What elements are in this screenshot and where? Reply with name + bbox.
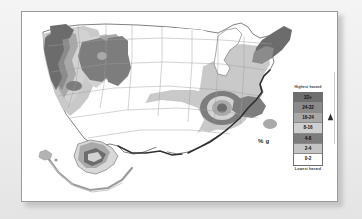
band-4-8-spot-nevada <box>66 81 82 91</box>
hawaii-inset <box>39 150 52 160</box>
legend-row-16-24[interactable]: 16-24 <box>294 113 322 123</box>
figure-panel: % g Highest hazard 32+ 24-32 16-24 8-16 … <box>21 11 338 202</box>
legend-unit-label: % g <box>258 138 270 144</box>
legend-row-0-2[interactable]: 0-2 <box>294 154 322 164</box>
map-conus-layer <box>43 23 292 155</box>
band-0-2-florida <box>244 120 266 150</box>
legend-row-label: 2-4 <box>305 146 312 151</box>
up-arrow-icon <box>327 113 334 121</box>
legend-row-32-plus[interactable]: 32+ <box>294 93 322 103</box>
band-4-8-charleston <box>263 119 277 129</box>
legend-highest-hazard-caption: Highest hazard <box>280 85 336 90</box>
legend-row-label: 4-8 <box>305 136 312 141</box>
legend-row-label: 0-2 <box>305 156 312 161</box>
legend-row-2-4[interactable]: 2-4 <box>294 144 322 154</box>
legend-swatch-stack[interactable]: 32+ 24-32 16-24 8-16 4-8 2-4 0-2 <box>293 92 323 166</box>
legend-row-8-16[interactable]: 8-16 <box>294 123 322 133</box>
legend-row-label: 24-32 <box>302 105 314 110</box>
hawaii-island-dot <box>54 158 57 161</box>
legend-row-24-32[interactable]: 24-32 <box>294 103 322 113</box>
legend-row-label: 16-24 <box>302 115 314 120</box>
hazard-legend: Highest hazard 32+ 24-32 16-24 8-16 4-8 <box>280 85 336 172</box>
legend-row-4-8[interactable]: 4-8 <box>294 134 322 144</box>
figure-screenshot: % g Highest hazard 32+ 24-32 16-24 8-16 … <box>0 0 362 219</box>
band-4-8-spot-idaho <box>97 52 107 60</box>
map-alaska-inset <box>39 140 132 192</box>
legend-row-label: 8-16 <box>303 125 312 130</box>
legend-lowest-hazard-caption: Lowest hazard <box>280 167 336 172</box>
legend-row-label: 32+ <box>304 95 312 100</box>
